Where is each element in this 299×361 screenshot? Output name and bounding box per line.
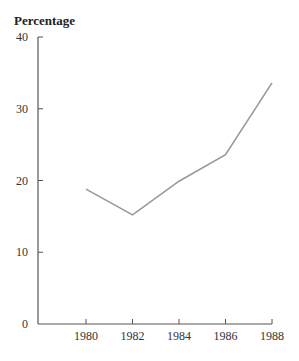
x-tick-label: 1982 (121, 329, 145, 343)
y-axis-label: Percentage (14, 13, 75, 29)
plot-area: 01020304019801982198419861988 (0, 0, 299, 361)
y-tick-label: 30 (16, 102, 28, 116)
y-tick-label: 20 (16, 174, 28, 188)
x-tick-label: 1984 (167, 329, 191, 343)
y-tick-label: 10 (16, 245, 28, 259)
x-tick-label: 1980 (74, 329, 98, 343)
line-chart: Percentage 01020304019801982198419861988 (0, 0, 299, 361)
y-tick-label: 40 (16, 30, 28, 44)
x-tick-label: 1986 (214, 329, 238, 343)
data-line (86, 83, 272, 215)
y-tick-label: 0 (22, 317, 28, 331)
x-tick-label: 1988 (260, 329, 284, 343)
